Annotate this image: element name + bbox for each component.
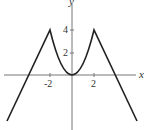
y-axis-label: y: [68, 0, 74, 7]
x-axis-label: x: [138, 68, 144, 80]
function-graph: -2 2 4 2 x y: [0, 0, 146, 130]
x-tick-label-2: 2: [91, 78, 96, 89]
y-tick-label-4: 4: [63, 24, 68, 35]
x-tick-label-neg2: -2: [44, 78, 52, 89]
y-tick-label-2: 2: [63, 47, 68, 58]
